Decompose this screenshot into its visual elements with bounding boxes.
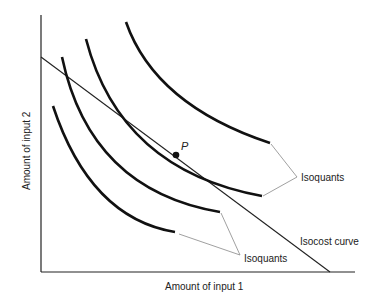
y-axis-label: Amount of input 2 (21, 111, 32, 190)
leader-line (179, 234, 240, 255)
leader-line (271, 144, 297, 177)
point-label: P (181, 140, 189, 152)
isoquant-2 (62, 57, 220, 212)
x-axis-label: Amount of input 1 (165, 281, 244, 292)
isoquant-1-lowest (53, 106, 175, 232)
isoquant-diagram: P Isoquants Isocost curve Isoquants Amou… (0, 0, 390, 300)
isoquant-3-tangent (86, 39, 262, 196)
leader-line (263, 177, 297, 196)
isocost-label: Isocost curve (300, 236, 359, 247)
isoquants-label-upper: Isoquants (301, 172, 344, 183)
leader-line (221, 213, 240, 255)
isoquants-label-lower: Isoquants (244, 253, 287, 264)
isoquant-4-highest (126, 22, 270, 143)
tangency-point (173, 152, 180, 159)
